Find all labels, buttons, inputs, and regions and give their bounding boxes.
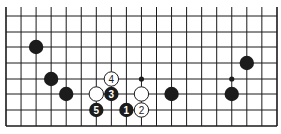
move-number: 3 (109, 89, 115, 100)
white-stone (89, 87, 103, 101)
point-marker-dot (139, 76, 144, 81)
white-stone (134, 87, 148, 101)
white-stone-icon (134, 87, 148, 101)
move-number: 2 (139, 105, 145, 116)
black-stone-3: 3 (104, 87, 118, 101)
black-stone-icon (164, 87, 178, 101)
black-stone-icon (29, 40, 43, 54)
black-stone-icon (59, 87, 73, 101)
white-stone-2: 2 (134, 103, 148, 117)
black-stone-icon (240, 56, 254, 70)
move-number: 5 (94, 105, 100, 116)
black-stone-5: 5 (89, 103, 103, 117)
black-stone (164, 87, 178, 101)
black-stone-1: 1 (119, 103, 133, 117)
black-stone (225, 87, 239, 101)
black-stone (240, 56, 254, 70)
black-stone-icon (225, 87, 239, 101)
black-stone (59, 87, 73, 101)
black-stone (44, 72, 58, 86)
black-stone (29, 40, 43, 54)
white-stone-4: 4 (104, 72, 118, 86)
point-marker-dot (229, 76, 234, 81)
move-number: 1 (124, 105, 130, 116)
black-stone-icon (44, 72, 58, 86)
go-board: 43512 (0, 0, 281, 134)
white-stone-icon (89, 87, 103, 101)
move-number: 4 (109, 74, 115, 85)
